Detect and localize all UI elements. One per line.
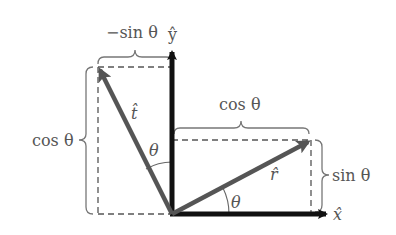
r-hat-label: r̂ [270, 165, 279, 184]
brace-right-sin [315, 140, 329, 212]
x-hat-label: x̂ [333, 205, 342, 224]
minus-sin-theta-label: −sin θ [106, 23, 158, 42]
theta-lower-label: θ [231, 193, 241, 212]
right-sin-theta-label: sin θ [332, 166, 370, 185]
brace-left-cos [79, 67, 93, 214]
theta-upper-label: θ [149, 141, 159, 160]
brace-top-minus-sin [98, 50, 172, 64]
t-hat-vector [100, 70, 172, 214]
brace-top-cos [174, 121, 309, 134]
t-hat-label: t̂ [131, 103, 138, 123]
left-cos-theta-label: cos θ [32, 131, 74, 150]
y-hat-label: ŷ [167, 25, 177, 44]
top-cos-theta-label: cos θ [219, 95, 261, 114]
theta-arc-lower [223, 188, 229, 214]
unit-vector-diagram: −sin θ ŷ cos θ cos θ sin θ t̂ r̂ x̂ θ θ [0, 0, 396, 235]
